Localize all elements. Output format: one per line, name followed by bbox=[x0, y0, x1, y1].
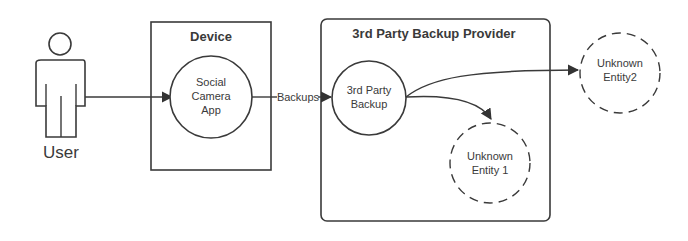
process-label-line-2: Backup bbox=[351, 98, 388, 110]
process-label-line-3: App bbox=[201, 104, 221, 116]
external-entity-unknown-2[interactable]: Unknown Entity2 bbox=[580, 33, 660, 113]
entity-label-line-2: Entity2 bbox=[603, 71, 637, 83]
flow-backups-label: Backups bbox=[277, 91, 320, 103]
device-title: Device bbox=[190, 29, 232, 44]
process-social-camera-app[interactable]: Social Camera App bbox=[170, 56, 252, 138]
process-label-line-1: Social bbox=[196, 76, 226, 88]
flow-backups[interactable]: Backups bbox=[252, 89, 331, 104]
user-actor[interactable]: User bbox=[36, 33, 85, 162]
diagram-canvas: User Device 3rd Party Backup Provider So… bbox=[0, 0, 688, 241]
user-label: User bbox=[43, 143, 79, 162]
user-head-icon bbox=[49, 33, 71, 55]
flow-backup-to-entity-1[interactable] bbox=[406, 96, 491, 119]
entity-label-line-2: Entity 1 bbox=[472, 164, 509, 176]
provider-title: 3rd Party Backup Provider bbox=[352, 26, 515, 41]
entity-label-line-1: Unknown bbox=[597, 57, 643, 69]
process-label-line-2: Camera bbox=[191, 90, 231, 102]
external-entity-unknown-1[interactable]: Unknown Entity 1 bbox=[450, 123, 530, 203]
flow-backup-to-entity-2[interactable] bbox=[406, 70, 578, 97]
entity-label-line-1: Unknown bbox=[467, 150, 513, 162]
process-third-party-backup[interactable]: 3rd Party Backup bbox=[332, 61, 406, 135]
process-label-line-1: 3rd Party bbox=[347, 84, 392, 96]
